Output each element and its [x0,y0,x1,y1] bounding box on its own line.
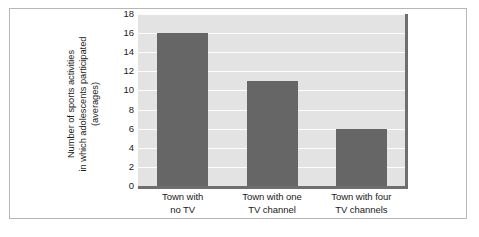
y-tick-label: 18 [112,9,134,19]
bar [247,81,298,186]
x-tick-label: Town with fourTV channels [317,191,406,216]
y-axis-tick-labels: 024681012141618 [112,14,134,186]
y-axis-title-line-3: (averages) [90,82,102,126]
bar-chart: Number of sports activities in which ado… [0,0,479,237]
y-tick-label: 4 [112,143,134,153]
y-tick-label: 14 [112,47,134,57]
x-tick-label-line: Town with four [317,191,406,204]
x-axis-line [138,186,408,189]
y-axis-title: Number of sports activities in which ado… [58,18,110,190]
x-tick-label-line: TV channel [227,204,316,217]
y-tick-label: 16 [112,28,134,38]
y-tick-label: 6 [112,124,134,134]
bar [336,129,387,186]
y-tick-label: 12 [112,67,134,77]
y-tick-label: 2 [112,162,134,172]
x-tick-label-line: TV channels [317,204,406,217]
x-tick-label-line: no TV [138,204,227,217]
plot-right-border [405,14,408,189]
y-axis-title-line-1: Number of sports activities [66,50,78,158]
x-tick-label-line: Town with [138,191,227,204]
y-tick-label: 10 [112,86,134,96]
x-tick-label-line: Town with one [227,191,316,204]
plot-area [138,14,406,186]
y-tick-label: 8 [112,105,134,115]
y-tick-label: 0 [112,181,134,191]
y-axis-title-line-2: in which adolescents participated [78,37,90,172]
bar [157,33,208,186]
gridline [138,14,406,15]
x-axis-tick-labels: Town withno TVTown with oneTV channelTow… [138,191,406,225]
x-tick-label: Town withno TV [138,191,227,216]
x-tick-label: Town with oneTV channel [227,191,316,216]
